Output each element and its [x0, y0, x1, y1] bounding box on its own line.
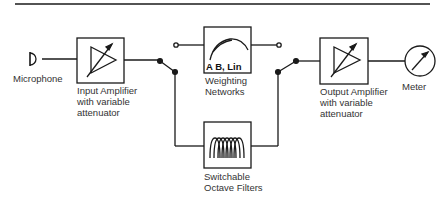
weighting-label-1: Weighting — [205, 75, 247, 86]
octave-filters-block — [204, 122, 251, 168]
weighting-label-2: Networks — [205, 86, 245, 97]
diagram-canvas — [0, 0, 447, 199]
input-amplifier-label-3: attenuator — [77, 107, 120, 118]
input-amplifier-label-2: with variable — [77, 96, 130, 107]
input-amplifier-block — [77, 38, 160, 83]
filter-bank-icon — [210, 138, 244, 158]
weighting-inner-label: A B, Lin — [206, 61, 242, 72]
output-amplifier-label-2: with variable — [320, 97, 373, 108]
filters-label-1: Switchable — [204, 171, 250, 182]
microphone-label: Microphone — [13, 73, 63, 84]
amplifier-triangle-icon — [91, 47, 116, 73]
right-switch — [251, 59, 320, 146]
filters-label-2: Octave Filters — [204, 182, 263, 193]
output-amplifier-label-3: attenuator — [320, 108, 363, 119]
microphone-icon — [30, 52, 77, 66]
output-amplifier-label-1: Output Amplifier — [320, 86, 388, 97]
left-switch — [158, 43, 204, 146]
meter-label: Meter — [402, 81, 426, 92]
output-amplifier-block — [320, 38, 405, 84]
input-amplifier-label-1: Input Amplifier — [77, 85, 137, 96]
amplifier-triangle-icon — [334, 47, 360, 73]
meter-icon — [405, 46, 435, 76]
